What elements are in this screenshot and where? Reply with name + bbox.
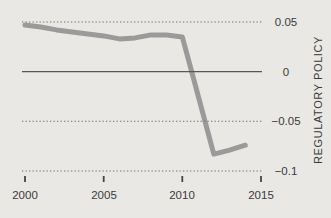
regulatory-policy-chart: 0.050−0.05−0.1 2000200520102015 REGULATO… [0,0,331,218]
x-tick-label: 2000 [3,188,47,202]
chart-canvas [0,0,331,218]
x-tick-marks [25,176,261,182]
x-tick-label: 2015 [239,188,283,202]
x-tick-label: 2010 [160,188,204,202]
y-tick-label: −0.05 [263,114,309,128]
y-tick-label: 0.05 [263,15,309,29]
y-tick-label: −0.1 [263,164,309,178]
y-axis-title: REGULATORY POLICY [311,35,325,166]
series-layer [25,25,245,154]
y-tick-label: 0 [263,65,309,79]
regulatory-policy-line [25,25,245,154]
x-tick-label: 2005 [82,188,126,202]
